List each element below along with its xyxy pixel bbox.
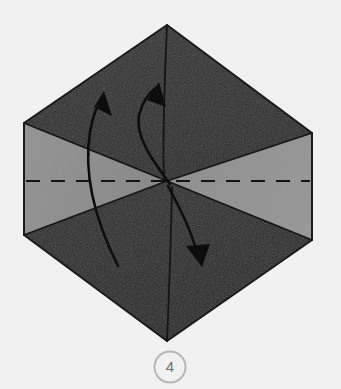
step-number-badge: 4: [155, 352, 186, 383]
origami-figure-root: 4: [0, 0, 341, 389]
origami-diagram-svg: 4: [0, 0, 341, 389]
step-badge-label: 4: [166, 358, 174, 375]
